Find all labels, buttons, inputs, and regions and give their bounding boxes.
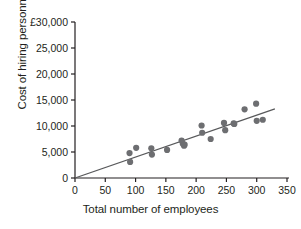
y-tick-label: 5,000 [42,146,68,158]
y-tick-label: £30,000 [30,16,68,28]
data-point [208,136,214,142]
y-axis-title: Cost of hiring personnel [12,0,32,130]
y-tick-label: 10,000 [36,120,68,132]
x-tick-label: 0 [72,184,78,196]
data-point [221,120,227,126]
x-tick-label: 350 [278,184,296,196]
x-tick-label: 150 [157,184,175,196]
y-tick-label: 0 [62,172,68,184]
x-axis-title: Total number of employees [0,203,301,215]
y-tick-label: 25,000 [36,42,68,54]
data-point [198,122,204,128]
data-point [164,147,170,153]
data-point [182,142,188,148]
data-point [260,117,266,123]
data-point [253,101,259,107]
scatter-chart: 05,00010,00015,00020,00025,000£30,000050… [0,0,301,229]
data-point [254,118,260,124]
y-tick-label: 15,000 [36,94,68,106]
x-tick-label: 250 [218,184,236,196]
data-point [148,145,154,151]
y-tick-label: 20,000 [36,68,68,80]
data-point [149,152,155,158]
data-point [222,127,228,133]
data-point [126,150,132,156]
x-tick-label: 300 [248,184,266,196]
chart-canvas: 05,00010,00015,00020,00025,000£30,000050… [0,0,301,229]
x-tick-label: 100 [127,184,145,196]
data-point [127,159,133,165]
data-point [199,130,205,136]
data-point [242,106,248,112]
data-point [231,121,237,127]
data-points [126,101,265,165]
y-axis-title-text: Cost of hiring personnel [16,0,28,110]
data-point [133,145,139,151]
x-axis-title-text: Total number of employees [83,203,219,215]
x-tick-label: 200 [187,184,205,196]
x-tick-label: 50 [99,184,111,196]
trend-line [75,109,275,178]
